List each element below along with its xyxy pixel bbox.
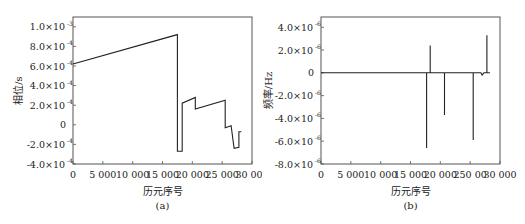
- x-tick-label: 5 000: [89, 169, 116, 180]
- y-tick-label: -4.0×10: [27, 159, 65, 170]
- y-tick-label: 0: [308, 67, 314, 78]
- y-tick-label: 1.0×10: [30, 21, 65, 32]
- y-tick-exponent: -6: [315, 111, 321, 118]
- y-tick-exponent: -4: [67, 39, 73, 46]
- x-tick-label: 20 000: [176, 169, 209, 180]
- chart-b: 05 00010 00015 00020 000250 0030 0004.0×…: [262, 0, 525, 224]
- x-tick-label: 0: [70, 169, 76, 180]
- x-tick-label: 20 000: [424, 169, 457, 180]
- chart-a: 05 00010 00015 00020 00025 00030 0001.0×…: [0, 0, 262, 224]
- y-tick-exponent: -4: [67, 59, 73, 66]
- y-tick-label: 4.0×10: [30, 80, 65, 91]
- y-tick-label: 2.0×10: [278, 45, 313, 56]
- y-tick-exponent: -6: [315, 43, 321, 50]
- x-tick-label: 30 000: [235, 169, 262, 180]
- y-tick-label: 2.0×10: [30, 100, 65, 111]
- x-tick-label: 0: [318, 169, 324, 180]
- y-tick-label: -2.0×10: [27, 139, 65, 150]
- y-tick-label: 6.0×10: [30, 61, 65, 72]
- y-tick-exponent: -6: [315, 20, 321, 27]
- x-tick-label: 5 000: [337, 169, 364, 180]
- y-tick-exponent: -4: [67, 137, 73, 144]
- x-tick-label: 25 000: [206, 169, 239, 180]
- y-tick-exponent: -3: [67, 20, 73, 27]
- y-tick-exponent: -4: [67, 157, 73, 164]
- y-tick-label: -4.0×10: [275, 113, 313, 124]
- series-phase-line: [73, 35, 241, 152]
- x-tick-label: 15 000: [146, 169, 179, 180]
- y-tick-label: 8.0×10: [30, 41, 65, 52]
- series-frequency-line: [321, 35, 490, 148]
- y-tick-label: -2.0×10: [275, 90, 313, 101]
- y-tick-exponent: -4: [67, 98, 73, 105]
- y-tick-label: -8.0×10: [275, 159, 313, 170]
- x-tick-label: 30 000: [483, 169, 516, 180]
- x-tick-label: 250 00: [454, 169, 487, 180]
- x-axis-label: 历元序号: [143, 185, 183, 197]
- y-tick-exponent: -6: [315, 134, 321, 141]
- chart-caption: (a): [156, 200, 170, 211]
- y-tick-exponent: -6: [315, 89, 321, 96]
- y-axis-label: 频率/Hz: [262, 72, 274, 109]
- y-tick-label: 0: [60, 119, 66, 130]
- y-axis-label: 相位/s: [12, 76, 24, 105]
- y-tick-label: 4.0×10: [278, 22, 313, 33]
- chart-caption: (b): [403, 200, 417, 211]
- x-tick-label: 10 000: [116, 169, 149, 180]
- y-tick-label: -6.0×10: [275, 136, 313, 147]
- y-tick-exponent: -4: [67, 79, 73, 86]
- x-axis-label: 历元序号: [391, 185, 431, 197]
- x-tick-label: 10 000: [364, 169, 397, 180]
- y-tick-exponent: -6: [315, 157, 321, 164]
- x-tick-label: 15 000: [394, 169, 427, 180]
